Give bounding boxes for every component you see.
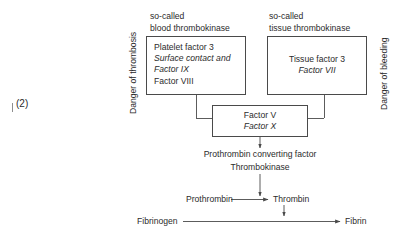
box-tissue-thrombokinase: Tissue factor 3 Factor VII — [267, 36, 367, 95]
caption-right-line1: so-called — [269, 10, 350, 22]
label-danger-of-bleeding: Danger of bleeding — [379, 37, 389, 110]
extrinsic-line-2: Factor VII — [268, 65, 366, 76]
figure-number: (2) — [16, 99, 28, 109]
box-tissue-thrombokinase-text: Tissue factor 3 Factor VII — [268, 54, 366, 77]
box-blood-thrombokinase-text: Platelet factor 3 Surface contact and Fa… — [154, 42, 230, 87]
margin-mark — [12, 103, 13, 112]
common-line-1: Factor V — [213, 110, 307, 121]
caption-right-line2: tissue thrombokinase — [269, 22, 350, 34]
caption-blood-thrombokinase: so-called blood thrombokinase — [150, 10, 230, 34]
box-factor-v-x-text: Factor V Factor X — [213, 110, 307, 133]
intrinsic-line-2: Surface contact and — [154, 53, 230, 64]
extrinsic-line-1: Tissue factor 3 — [268, 54, 366, 65]
label-fibrin: Fibrin — [345, 217, 367, 226]
diagram-canvas: (2) Danger of thrombosis Danger of bleed… — [0, 0, 402, 238]
label-fibrinogen: Fibrinogen — [137, 217, 178, 226]
label-thrombin: Thrombin — [273, 195, 309, 204]
box-factor-v-x: Factor V Factor X — [212, 105, 308, 137]
label-thrombokinase: Thrombokinase — [230, 163, 289, 172]
intrinsic-line-3: Factor IX — [154, 64, 230, 75]
intrinsic-line-4: Factor VIII — [154, 76, 230, 87]
label-danger-of-thrombosis: Danger of thrombosis — [128, 32, 138, 114]
intrinsic-line-1: Platelet factor 3 — [154, 42, 230, 53]
caption-left-line1: so-called — [150, 10, 230, 22]
caption-left-line2: blood thrombokinase — [150, 22, 230, 34]
label-prothrombin-converting-factor: Prothrombin converting factor — [204, 150, 317, 159]
label-prothrombin: Prothrombin — [186, 195, 233, 204]
caption-tissue-thrombokinase: so-called tissue thrombokinase — [269, 10, 350, 34]
common-line-2: Factor X — [213, 121, 307, 132]
box-blood-thrombokinase: Platelet factor 3 Surface contact and Fa… — [146, 36, 246, 95]
